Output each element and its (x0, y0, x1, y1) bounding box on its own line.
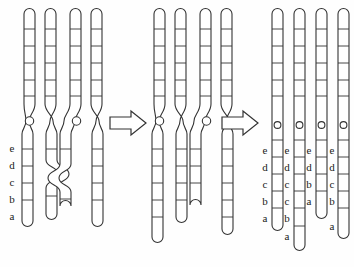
result4-label-e: e (326, 145, 338, 156)
left-label-e: e (6, 143, 18, 154)
result3-label-e: e (303, 145, 315, 156)
result3-label-d: d (303, 162, 315, 173)
centromere-3 (155, 117, 163, 125)
stage-2-group (152, 9, 233, 243)
result1-label-e: e (259, 145, 271, 156)
result-chromatid-4 (338, 9, 349, 239)
result4-label-b: b (326, 196, 338, 207)
result2-label-c2: c (281, 196, 293, 207)
result1-label-c: c (259, 179, 271, 190)
result2-label-b: b (281, 213, 293, 224)
centromere-1 (25, 117, 33, 125)
left-label-a: a (6, 211, 18, 222)
stage-1-group (22, 9, 103, 227)
result4-label-c: c (326, 179, 338, 190)
result1-label-b: b (259, 196, 271, 207)
stage2-chromatid-3 (190, 9, 211, 206)
centromere-6 (296, 122, 303, 129)
centromere-2 (72, 117, 80, 125)
result4-label-a: a (326, 221, 338, 232)
left-label-b: b (6, 194, 18, 205)
chromatid-b2 (91, 9, 103, 227)
result3-label-a: a (303, 196, 315, 207)
result4-label-d: d (326, 162, 338, 173)
centromere-8 (340, 122, 347, 129)
result-chromatid-2 (294, 9, 305, 251)
crossing-over-figure: .ch { fill: #ffffff; stroke: #333333; st… (0, 0, 354, 267)
left-label-c: c (6, 177, 18, 188)
chromosome-diagram-svg: .ch { fill: #ffffff; stroke: #333333; st… (0, 0, 354, 267)
result2-label-e: e (281, 145, 293, 156)
result2-label-a: a (281, 231, 293, 242)
stage2-chromatid-2 (175, 9, 187, 223)
arrow-1-icon (110, 111, 146, 135)
left-label-d: d (6, 160, 18, 171)
result1-label-d: d (259, 162, 271, 173)
centromere-7 (318, 122, 325, 129)
centromere-5 (274, 122, 281, 129)
result3-label-b: b (303, 179, 315, 190)
result2-label-c: c (281, 179, 293, 190)
result2-label-d: d (281, 162, 293, 173)
result1-label-a: a (259, 213, 271, 224)
centromere-4 (202, 117, 210, 125)
